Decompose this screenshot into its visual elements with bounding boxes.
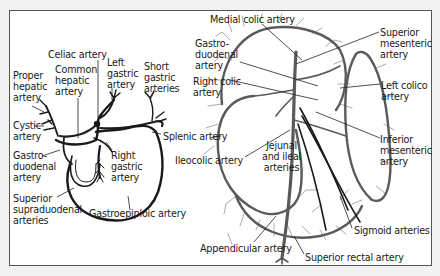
- label-inferior-mesenteric-artery: Inferior mesenteric artery: [380, 134, 432, 167]
- label-gastroduodenal-artery-right: Gastro- duodenal artery: [195, 38, 238, 71]
- label-superior-rectal-artery: Superior rectal artery: [305, 252, 404, 263]
- label-right-colic-artery: Right colic artery: [193, 76, 241, 98]
- label-gastroepiploic-artery: Gastroepiploic artery: [89, 208, 186, 219]
- label-proper-hepatic-artery: Proper hepatic artery: [13, 70, 47, 103]
- label-right-gastric-artery: Right gastric artery: [111, 150, 142, 183]
- label-common-hepatic-artery: Common hepatic artery: [55, 64, 97, 97]
- label-appendicular-artery: Appendicular artery: [200, 243, 292, 254]
- label-sigmoid-arteries: Sigmoid arteries: [354, 225, 430, 236]
- label-jejunal-ileal-arteries: Jejunal and ileal arteries: [262, 140, 301, 173]
- label-superior-mesenteric-artery: Superior mesenteric artery: [380, 27, 432, 60]
- label-superior-supraduodenal-arteries: Superior supraduodenal arteries: [13, 193, 82, 226]
- label-gastroduodenal-artery-left: Gastro- duodenal artery: [13, 150, 56, 183]
- label-left-colico-artery: Left colico artery: [381, 80, 428, 102]
- label-short-gastric-arteries: Short gastric arteries: [144, 61, 179, 94]
- label-splenic-artery: Splenic artery: [163, 131, 227, 142]
- label-cystic-artery: Cystic artery: [13, 120, 41, 142]
- label-left-gastric-artery: Left gastric artery: [107, 57, 138, 90]
- label-celiac-artery: Celiac artery: [48, 49, 107, 60]
- label-medial-colic-artery: Medial colic artery: [210, 14, 295, 25]
- label-ileocolic-artery: Ileocolic artery: [175, 155, 243, 166]
